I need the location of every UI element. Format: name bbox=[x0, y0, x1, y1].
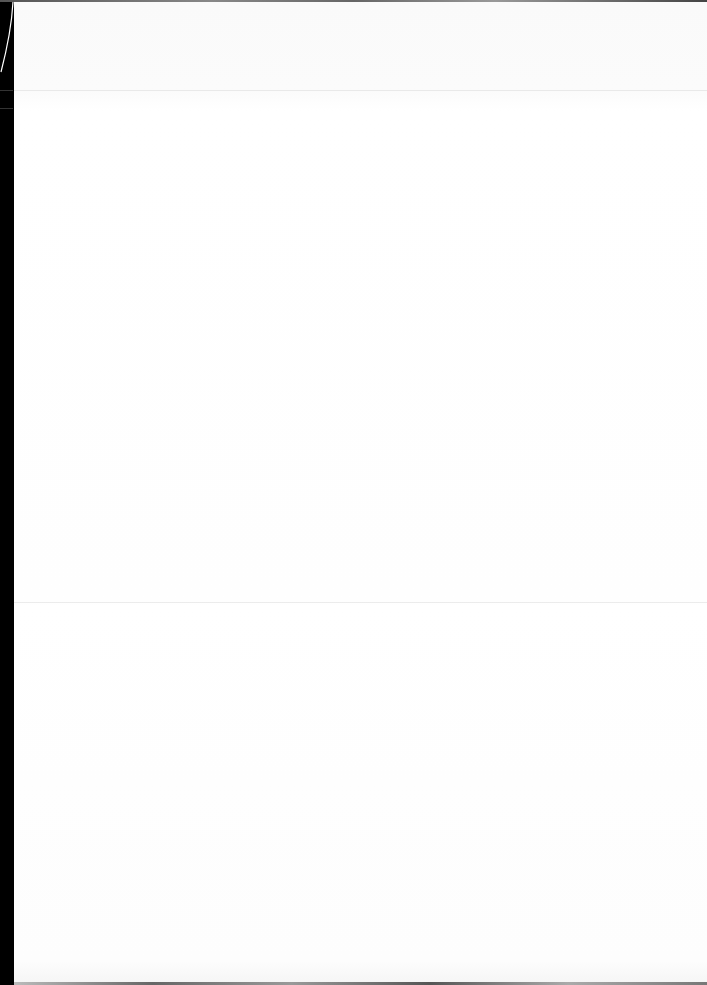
scan-artifact-line bbox=[14, 602, 707, 603]
scanned-page bbox=[0, 0, 707, 985]
scan-artifact-line bbox=[14, 90, 707, 91]
edge-mark bbox=[0, 108, 13, 109]
top-edge-shadow bbox=[0, 0, 707, 2]
page-curl-icon bbox=[0, 0, 20, 80]
edge-mark bbox=[0, 90, 13, 91]
blank-paper-sheet bbox=[14, 1, 707, 982]
